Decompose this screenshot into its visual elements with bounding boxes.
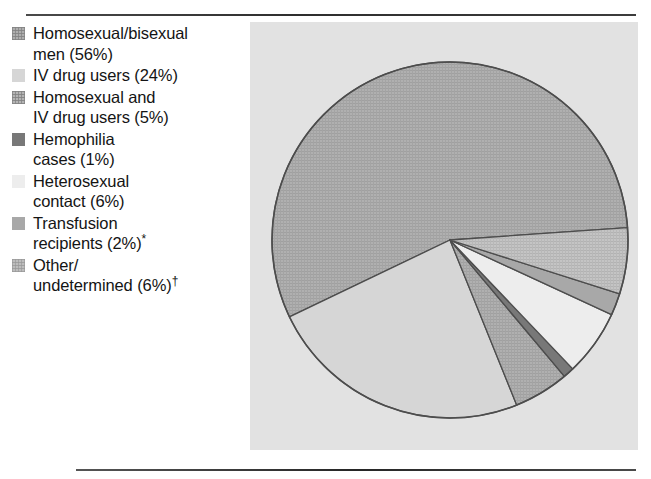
legend-item-homosexual-bisexual-men[interactable]: Homosexual/bisexual men (56%) <box>12 23 244 64</box>
legend-label-iv-drug-users: IV drug users (24%) <box>33 65 178 86</box>
chart-legend: Homosexual/bisexual men (56%) IV drug us… <box>12 23 244 297</box>
legend-label-other-undetermined: Other/ undetermined (6%)† <box>33 255 178 296</box>
legend-swatch-hemophilia-cases <box>12 133 25 146</box>
legend-label-transfusion-recipients: Transfusion recipients (2%)* <box>33 213 146 254</box>
legend-label-homosexual-bisexual-men: Homosexual/bisexual men (56%) <box>33 23 188 64</box>
legend-swatch-homosexual-and-iv-drug-users <box>12 91 25 104</box>
legend-footnote-marker-dagger: † <box>172 274 179 288</box>
legend-item-transfusion-recipients[interactable]: Transfusion recipients (2%)* <box>12 213 244 254</box>
legend-swatch-iv-drug-users <box>12 69 25 82</box>
legend-label-text-other-undetermined: Other/ undetermined (6%) <box>33 256 172 295</box>
legend-label-text-transfusion-recipients: Transfusion recipients (2%) <box>33 214 142 253</box>
legend-item-iv-drug-users[interactable]: IV drug users (24%) <box>12 65 244 86</box>
legend-label-hemophilia-cases: Hemophilia cases (1%) <box>33 129 115 170</box>
chart-panel <box>250 22 638 450</box>
bottom-divider-rule <box>76 469 636 471</box>
legend-item-hemophilia-cases[interactable]: Hemophilia cases (1%) <box>12 129 244 170</box>
pie-chart[interactable] <box>250 22 638 450</box>
legend-footnote-marker-asterisk: * <box>142 232 147 246</box>
pie-slice-group <box>272 62 628 418</box>
legend-swatch-heterosexual-contact <box>12 175 25 188</box>
legend-label-homosexual-and-iv-drug-users: Homosexual and IV drug users (5%) <box>33 87 169 128</box>
legend-item-homosexual-and-iv-drug-users[interactable]: Homosexual and IV drug users (5%) <box>12 87 244 128</box>
legend-item-other-undetermined[interactable]: Other/ undetermined (6%)† <box>12 255 244 296</box>
legend-swatch-other-undetermined <box>12 259 25 272</box>
legend-swatch-homosexual-bisexual-men <box>12 27 25 40</box>
top-divider-rule <box>26 14 636 16</box>
figure-container: Homosexual/bisexual men (56%) IV drug us… <box>0 0 651 479</box>
legend-label-heterosexual-contact: Heterosexual contact (6%) <box>33 171 129 212</box>
legend-swatch-transfusion-recipients <box>12 217 25 230</box>
legend-item-heterosexual-contact[interactable]: Heterosexual contact (6%) <box>12 171 244 212</box>
